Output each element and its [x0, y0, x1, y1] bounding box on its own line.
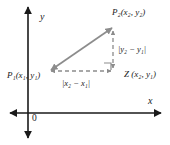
- x-axis-label: x: [148, 96, 152, 106]
- segment-hypotenuse: [51, 28, 112, 70]
- point-label-z: Z (x₂, y₁): [124, 70, 156, 79]
- vertical-distance-label: |y₂ − y₁|: [118, 45, 146, 54]
- coordinate-plane-distance-diagram: y x 0 P₂(x₂, y₂) P₁(x₁, y₁) Z (x₂, y₁) |…: [0, 0, 170, 145]
- horizontal-distance-label: |x₂ − x₁|: [62, 79, 90, 88]
- origin-label: 0: [32, 114, 37, 124]
- right-angle-marker: [104, 63, 111, 70]
- point-label-p2: P₂(x₂, y₂): [112, 8, 145, 17]
- y-axis-label: y: [40, 12, 44, 22]
- point-label-p1: P₁(x₁, y₁): [7, 71, 40, 80]
